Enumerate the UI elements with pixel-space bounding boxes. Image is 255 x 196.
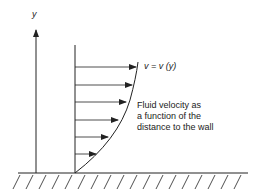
velocity-equation-label: v = v (y) xyxy=(144,61,176,72)
description-line: a function of the xyxy=(137,111,214,122)
wall-ground xyxy=(13,173,248,189)
description-line: distance to the wall xyxy=(137,122,214,133)
velocity-arrows xyxy=(75,67,136,154)
velocity-profile-diagram: y v = v (y) Fluid velocity as a function… xyxy=(0,0,255,196)
y-axis-label: y xyxy=(32,9,37,20)
velocity-profile-curve xyxy=(75,62,138,173)
description-line: Fluid velocity as xyxy=(137,100,214,111)
diagram-graphics xyxy=(0,0,255,196)
description-text: Fluid velocity as a function of the dist… xyxy=(137,100,214,133)
